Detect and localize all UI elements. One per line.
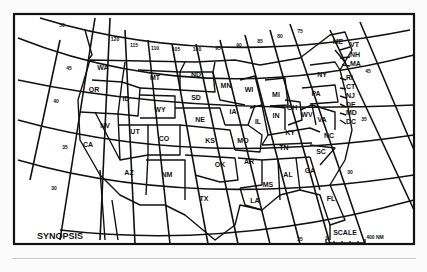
state-wv: WV	[301, 111, 313, 118]
state-ca: CA	[83, 141, 93, 148]
state-ga: GA	[305, 167, 316, 174]
degree-label-35: 35	[361, 116, 367, 122]
scale-end: 400 NM	[366, 234, 384, 240]
state-sd: SD	[191, 94, 201, 101]
degree-label-95: 95	[215, 45, 221, 51]
weather-synopsis-map: WAORCANVIDMTWYUTCOAZNMNDSDNEKSOKTXMNIAMO…	[0, 0, 427, 272]
state-mn: MN	[221, 82, 232, 89]
ne-state-nh: NH	[350, 51, 360, 58]
ne-state-nj: NJ	[346, 92, 355, 99]
degree-label-105: 105	[172, 46, 181, 52]
ne-state-de: DE	[346, 101, 356, 108]
state-ia: IA	[230, 108, 237, 115]
state-ut: UT	[130, 128, 140, 135]
state-ne: NE	[195, 116, 205, 123]
ne-state-vt: VT	[350, 41, 360, 48]
state-tn: TN	[279, 144, 288, 151]
degree-label-30: 30	[347, 169, 353, 175]
state-nv: NV	[100, 122, 110, 129]
state-mo: MO	[237, 137, 249, 144]
degree-label-80: 80	[277, 33, 283, 39]
state-ny: NY	[317, 71, 327, 78]
state-va: VA	[317, 116, 326, 123]
degree-label-75: 75	[297, 28, 303, 34]
degree-label-50: 50	[59, 22, 65, 28]
degree-label-110: 110	[151, 45, 159, 51]
state-mt: MT	[150, 74, 161, 81]
state-ok: OK	[215, 161, 226, 168]
degree-label-115: 115	[130, 42, 138, 48]
state-tx: TX	[200, 195, 209, 202]
state-pa: PA	[311, 90, 320, 97]
ne-state-ct: CT	[346, 83, 356, 90]
scale-label: SCALE	[333, 229, 357, 236]
state-me: ME	[333, 38, 344, 45]
state-or: OR	[89, 86, 100, 93]
divider-line	[12, 258, 416, 259]
state-il: IL	[255, 118, 262, 125]
ne-state-md: MD	[346, 109, 357, 116]
degree-label-40: 40	[53, 98, 59, 104]
state-sc: SC	[316, 148, 326, 155]
state-fl: FL	[327, 195, 336, 202]
state-nc: NC	[324, 132, 334, 139]
degree-label-45: 45	[66, 65, 72, 71]
ne-state-ma: MA	[350, 60, 361, 67]
state-wy: WY	[154, 106, 166, 113]
state-mi: MI	[272, 91, 280, 98]
state-in: IN	[273, 112, 280, 119]
degree-label-25: 25	[297, 236, 303, 242]
state-ms: MS	[263, 181, 274, 188]
degree-label-120: 120	[111, 36, 120, 42]
state-la: LA	[250, 197, 259, 204]
ne-state-dc: DC	[346, 118, 356, 125]
degree-label-90: 90	[236, 42, 242, 48]
state-nd: ND	[191, 71, 201, 78]
state-ky: KY	[285, 129, 295, 136]
map-title: SYNOPSIS	[37, 231, 83, 241]
state-ar: AR	[244, 158, 254, 165]
degree-label-85: 85	[257, 38, 263, 44]
degree-label-30: 30	[51, 185, 57, 191]
state-ks: KS	[205, 137, 215, 144]
state-wi: WI	[245, 86, 254, 93]
state-az: AZ	[124, 169, 134, 176]
state-nm: NM	[162, 171, 173, 178]
state-al: AL	[283, 171, 293, 178]
state-co: CO	[159, 135, 170, 142]
degree-label-45: 45	[365, 68, 371, 74]
degree-label-35: 35	[62, 144, 68, 150]
ne-state-ri: RI	[346, 74, 353, 81]
state-wa: WA	[97, 64, 108, 71]
state-oh: OH	[287, 104, 298, 111]
state-id: ID	[123, 95, 130, 102]
degree-label-100: 100	[193, 46, 202, 52]
